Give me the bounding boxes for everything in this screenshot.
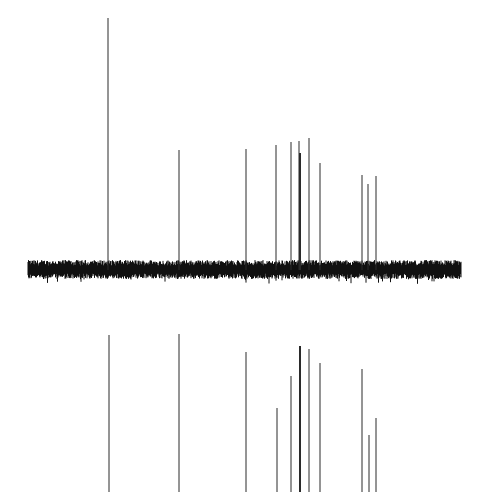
lower-peaks [109, 334, 376, 492]
noisy-baseline [28, 260, 461, 284]
nmr-spectrum-chart [0, 0, 491, 492]
upper-spectrum-panel [28, 18, 461, 284]
upper-peaks [108, 18, 376, 270]
lower-spectrum-panel [109, 334, 376, 492]
